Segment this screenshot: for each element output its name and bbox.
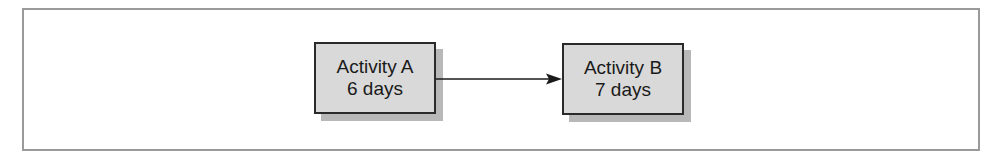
activity-a-title: Activity A xyxy=(336,56,413,78)
activity-a-duration: 6 days xyxy=(347,78,403,100)
activity-node-b: Activity B 7 days xyxy=(562,43,684,115)
activity-b-title: Activity B xyxy=(584,57,662,79)
arrow-right-icon xyxy=(436,72,562,86)
activity-node-a: Activity A 6 days xyxy=(314,42,436,114)
activity-b-duration: 7 days xyxy=(595,79,651,101)
